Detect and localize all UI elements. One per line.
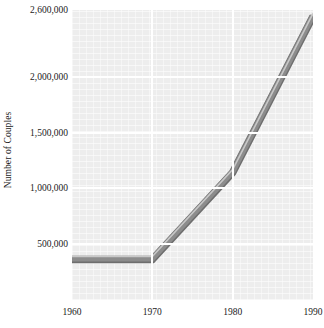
x-tick-label: 1970 [143,306,162,318]
x-tick-label: 1960 [63,306,82,318]
y-tick-label: 500,000 [2,239,68,249]
series-line-number-of-couples [72,10,313,300]
line-chart: Number of Couples 2,600,0002,000,0001,50… [0,0,324,328]
y-tick-label: 1,000,000 [2,183,68,193]
x-tick-label: 1990 [304,306,323,318]
y-tick-label: 2,000,000 [2,72,68,82]
y-axis-tick-labels: 2,600,0002,000,0001,500,0001,000,000500,… [2,0,68,328]
horizontal-gridline [72,132,313,134]
x-tick-label: 1980 [223,306,242,318]
plot-area [72,10,313,300]
x-axis-tick-labels: 1960197019801990 [0,306,324,326]
y-tick-label: 2,600,000 [2,5,68,15]
vertical-gridline [232,10,234,300]
horizontal-gridline [72,76,313,78]
vertical-gridline [151,10,153,300]
y-tick-label: 1,500,000 [2,128,68,138]
horizontal-gridline [72,243,313,245]
horizontal-gridline [72,187,313,189]
